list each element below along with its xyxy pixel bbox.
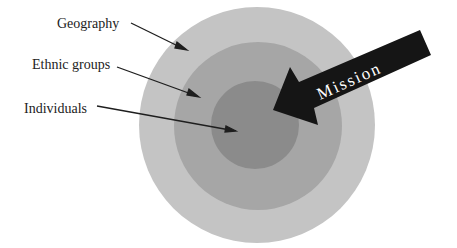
label-geography: Geography <box>57 16 119 31</box>
mission-target-diagram: Geography Ethnic groups Individuals Miss… <box>0 0 457 248</box>
label-ethnic-groups: Ethnic groups <box>32 57 110 72</box>
label-individuals: Individuals <box>24 101 87 116</box>
pointer-line-geography <box>131 23 182 48</box>
